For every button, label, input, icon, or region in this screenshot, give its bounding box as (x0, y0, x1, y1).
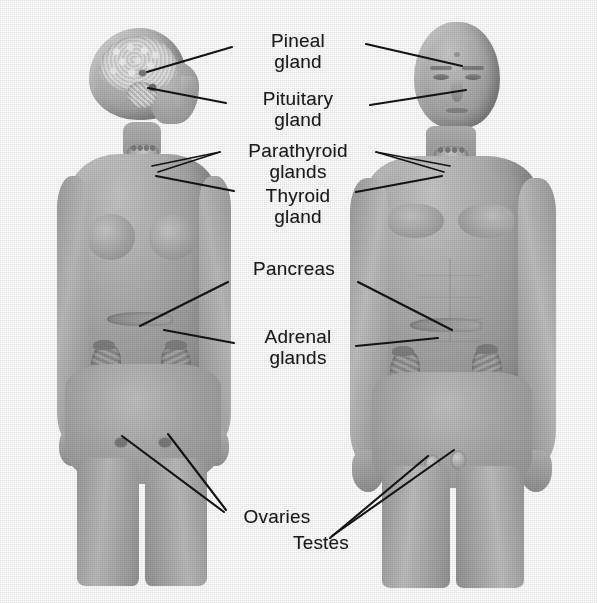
male-head (406, 22, 510, 138)
label-pituitary-gland: Pituitary gland (230, 88, 366, 130)
label-testes: Testes (268, 532, 374, 553)
parathyroid-glands-organ (131, 144, 155, 152)
male-eye-left (433, 74, 449, 80)
female-leg-right (145, 458, 207, 586)
male-pineal-marker (454, 52, 460, 57)
male-pectoral-right (458, 204, 514, 238)
ovary-left-organ (115, 438, 127, 447)
label-ovaries: Ovaries (222, 506, 332, 527)
female-adrenal-right (165, 340, 187, 350)
female-breast-right (149, 214, 197, 260)
pineal-gland-organ (139, 70, 146, 76)
male-pectoral-left (388, 204, 444, 238)
pituitary-gland-organ (149, 84, 156, 91)
ovary-right-organ (159, 438, 171, 447)
female-breast-left (87, 214, 135, 260)
label-thyroid-gland: Thyroid gland (238, 185, 358, 227)
female-adrenal-left (93, 340, 115, 350)
endocrine-system-diagram: Pineal gland Pituitary gland Parathyroid… (0, 0, 597, 603)
pancreas-organ (107, 312, 173, 326)
male-adrenal-left (392, 346, 414, 356)
female-leg-left (77, 458, 139, 586)
male-pancreas-organ (410, 318, 482, 332)
male-parathyroid-organ (438, 146, 464, 154)
male-leg-right (456, 466, 524, 588)
male-adrenal-right (476, 344, 498, 354)
female-head (87, 26, 203, 134)
female-torso (69, 154, 217, 388)
male-eye-right (465, 74, 481, 80)
label-adrenal-glands: Adrenal glands (238, 326, 358, 368)
male-figure (348, 22, 568, 588)
label-pineal-gland: Pineal gland (236, 30, 360, 72)
label-parathyroid-glands: Parathyroid glands (222, 140, 374, 182)
label-pancreas: Pancreas (232, 258, 356, 279)
male-leg-left (382, 466, 450, 588)
